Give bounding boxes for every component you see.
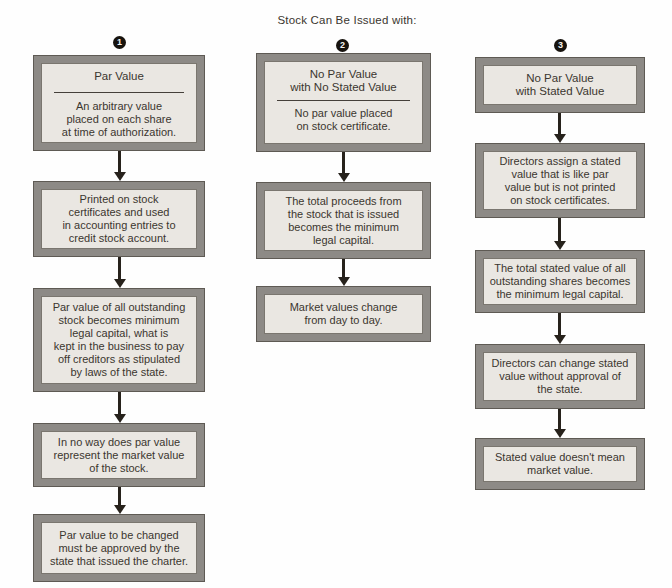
box-content: No Par Value with No Stated Value No par… — [264, 61, 423, 144]
box-body: An arbitrary value placed on each share … — [62, 100, 176, 139]
box-content: The total stated value of all outstandin… — [483, 258, 637, 305]
box-header: No Par Value with No Stated Value — [290, 68, 397, 94]
arrow-head — [554, 429, 566, 438]
arrow-head — [114, 279, 126, 288]
arrow-stem — [558, 113, 561, 135]
arrow-head — [338, 173, 350, 182]
box-body: In no way does par value represent the m… — [54, 436, 185, 475]
down-arrow — [113, 151, 126, 181]
down-arrow — [553, 313, 566, 344]
down-arrow — [337, 259, 350, 286]
box-content: Par Value An arbitrary value placed on e… — [41, 63, 197, 143]
column3-box4: Directors can change stated value withou… — [475, 344, 645, 409]
box-content: Par value of all outstanding stock becom… — [41, 296, 197, 384]
column3-box5: Stated value doesn't mean market value. — [475, 438, 645, 490]
column2-box2: The total proceeds from the stock that i… — [256, 182, 431, 259]
column1-box4: In no way does par value represent the m… — [33, 423, 205, 487]
box-body: The total proceeds from the stock that i… — [285, 195, 401, 247]
box-body: Printed on stock certificates and used i… — [62, 193, 175, 245]
arrow-stem — [118, 392, 121, 415]
arrow-stem — [558, 313, 561, 336]
column3-box3: The total stated value of all outstandin… — [475, 250, 645, 313]
arrow-head — [554, 335, 566, 344]
page-title: Stock Can Be Issued with: — [22, 14, 672, 26]
column2-box1: No Par Value with No Stated Value No par… — [256, 53, 431, 152]
arrow-stem — [558, 218, 561, 242]
box-body: No par value placed on stock certificate… — [295, 107, 393, 133]
column2-box3: Market values change from day to day. — [256, 286, 431, 342]
box-body: Par value to be changed must be approved… — [50, 529, 188, 568]
column1-box1: Par Value An arbitrary value placed on e… — [33, 55, 205, 151]
column1-number-badge: 1 — [113, 36, 126, 49]
flowchart: Stock Can Be Issued with: 1 Par Value An… — [0, 0, 672, 588]
column3-number-badge: 3 — [554, 39, 567, 52]
arrow-stem — [342, 152, 345, 174]
column2-number-badge: 2 — [336, 39, 349, 52]
box-body: Directors can change stated value withou… — [492, 357, 629, 396]
divider-line — [277, 100, 410, 101]
box-content: Printed on stock certificates and used i… — [41, 189, 197, 249]
arrow-head — [114, 172, 126, 181]
column1-box5: Par value to be changed must be approved… — [33, 514, 205, 582]
box-header: Par Value — [94, 70, 144, 83]
box-body: Directors assign a stated value that is … — [499, 155, 620, 207]
box-content: Directors can change stated value withou… — [483, 352, 637, 401]
arrow-stem — [118, 487, 121, 506]
arrow-head — [114, 505, 126, 514]
column3-box1: No Par Value with Stated Value — [475, 57, 645, 113]
down-arrow — [337, 152, 350, 182]
box-content: Directors assign a stated value that is … — [483, 151, 637, 210]
down-arrow — [113, 257, 126, 288]
column3-box2: Directors assign a stated value that is … — [475, 143, 645, 218]
box-content: No Par Value with Stated Value — [483, 65, 637, 105]
box-content: Stated value doesn't mean market value. — [483, 446, 637, 482]
box-content: The total proceeds from the stock that i… — [264, 190, 423, 251]
down-arrow — [113, 392, 126, 423]
arrow-head — [554, 134, 566, 143]
down-arrow — [113, 487, 126, 514]
box-content: Market values change from day to day. — [264, 294, 423, 334]
arrow-head — [114, 414, 126, 423]
arrow-head — [338, 277, 350, 286]
down-arrow — [553, 218, 566, 250]
column1-box2: Printed on stock certificates and used i… — [33, 181, 205, 257]
box-header: No Par Value with Stated Value — [516, 72, 605, 98]
arrow-stem — [118, 151, 121, 173]
down-arrow — [553, 113, 566, 143]
box-body: Par value of all outstanding stock becom… — [53, 301, 186, 379]
arrow-head — [554, 241, 566, 250]
box-body: The total stated value of all outstandin… — [490, 262, 631, 301]
box-content: In no way does par value represent the m… — [41, 431, 197, 479]
arrow-stem — [558, 409, 561, 430]
box-body: Market values change from day to day. — [290, 301, 398, 327]
arrow-stem — [342, 259, 345, 278]
column1-box3: Par value of all outstanding stock becom… — [33, 288, 205, 392]
box-content: Par value to be changed must be approved… — [41, 522, 197, 574]
arrow-stem — [118, 257, 121, 280]
down-arrow — [553, 409, 566, 438]
box-body: Stated value doesn't mean market value. — [495, 451, 625, 477]
divider-line — [54, 92, 185, 93]
